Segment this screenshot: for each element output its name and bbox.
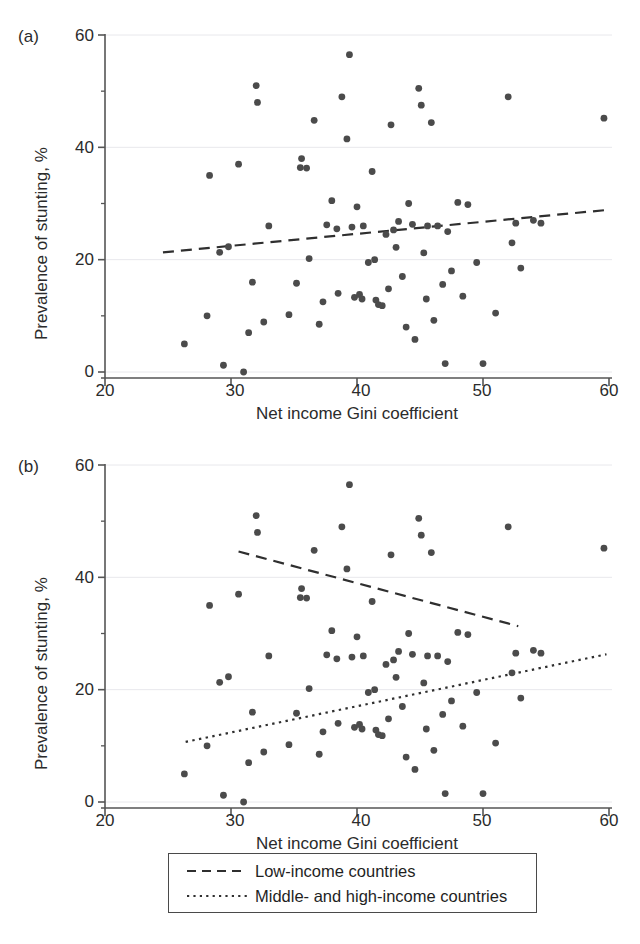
panel-a-plot-area [0,0,640,430]
panel-b-xtick-20: 20 [85,811,125,831]
panel-b: (b) Prevalence of stunting, % 60 40 20 0… [0,430,640,850]
dotted-line-icon [185,889,249,903]
dashed-line-icon [185,864,249,878]
panel-b-xtick-50: 50 [462,811,502,831]
panel-a-xtick-20: 20 [85,381,125,401]
legend: Low-income countries Middle- and high-in… [168,853,537,913]
panel-b-x-axis-title: Net income Gini coefficient [177,834,537,854]
panel-a-xtick-40: 40 [341,381,381,401]
panel-a-xtick-30: 30 [215,381,255,401]
panel-b-plot-area [0,430,640,850]
panel-a-xtick-50: 50 [462,381,502,401]
legend-item-middle-high-income: Middle- and high-income countries [185,884,507,908]
panel-b-xtick-30: 30 [215,811,255,831]
legend-item-low-income: Low-income countries [185,859,416,883]
panel-a: (a) Prevalence of stunting, % 60 40 20 0… [0,0,640,430]
panel-a-xtick-60: 60 [589,381,629,401]
legend-label-middle-high-income: Middle- and high-income countries [255,887,507,906]
panel-b-xtick-40: 40 [341,811,381,831]
figure-scatter-stunting-gini: (a) Prevalence of stunting, % 60 40 20 0… [0,0,640,944]
legend-label-low-income: Low-income countries [255,862,416,881]
panel-a-x-axis-title: Net income Gini coefficient [177,404,537,424]
panel-b-xtick-60: 60 [589,811,629,831]
